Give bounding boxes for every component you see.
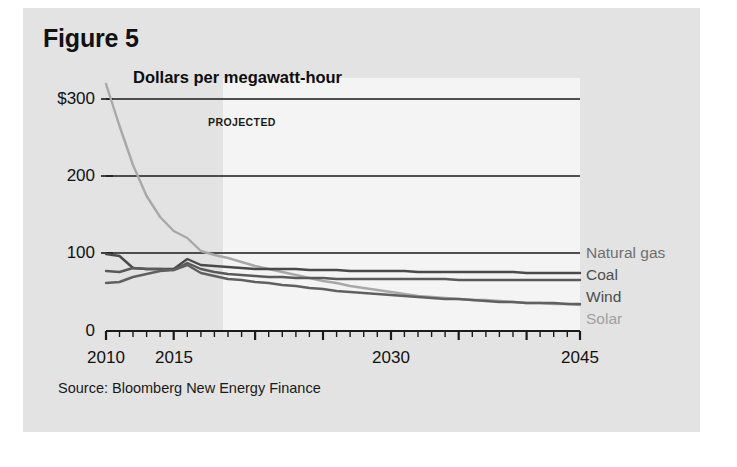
legend-label-coal: Coal	[586, 266, 618, 284]
chart-axis-title: Dollars per megawatt-hour	[133, 68, 342, 87]
xtick-label-2030: 2030	[356, 348, 426, 368]
ytick-label-0: 0	[33, 321, 95, 341]
ytick-label-200: 200	[33, 166, 95, 186]
chart-plot-area: Dollars per megawatt-hour PROJECTED $300…	[23, 56, 700, 356]
projected-annotation: PROJECTED	[208, 116, 276, 128]
ytick-label-100: 100	[33, 243, 95, 263]
legend-label-natural-gas: Natural gas	[586, 244, 665, 262]
legend-label-solar: Solar	[586, 310, 622, 328]
xtick-label-2045: 2045	[545, 348, 615, 368]
xtick-label-2015: 2015	[139, 348, 209, 368]
figure-title: Figure 5	[43, 24, 139, 53]
xtick-label-2010: 2010	[71, 348, 141, 368]
y-axis-ticks	[101, 99, 113, 253]
ytick-label-300: $300	[33, 89, 95, 109]
source-note: Source: Bloomberg New Energy Finance	[58, 380, 321, 396]
x-axis-major-ticks	[106, 331, 580, 340]
legend-label-wind: Wind	[586, 288, 621, 306]
figure-card: Figure 5	[23, 8, 700, 432]
